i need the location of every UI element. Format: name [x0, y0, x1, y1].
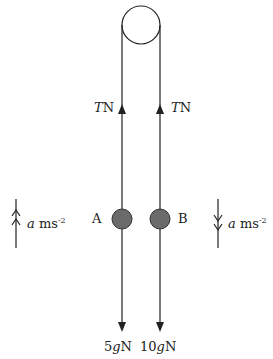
accel-unit: ms [39, 216, 58, 231]
particle-b-label: B [178, 212, 188, 225]
accel-symbol: a [27, 216, 35, 231]
pulley [122, 6, 160, 44]
tension-label-right: TN [171, 101, 191, 114]
particle-a [112, 209, 132, 229]
weight-arrow-a [118, 322, 126, 332]
tension-symbol: T [94, 100, 103, 115]
accel-exp: -2 [259, 216, 267, 225]
weight-unit: N [121, 339, 132, 354]
accel-label-right: a ms-2 [228, 217, 267, 230]
accel-exp: -2 [58, 216, 66, 225]
weight-symbol: g [112, 339, 120, 354]
tension-symbol: T [171, 100, 180, 115]
weight-arrow-b [156, 322, 164, 332]
particle-a-label: A [92, 212, 101, 225]
accel-unit: ms [240, 216, 259, 231]
weight-unit: N [165, 339, 176, 354]
accel-label-left: a ms-2 [27, 217, 66, 230]
accel-down-icon [214, 199, 222, 248]
tension-arrow-left [118, 104, 126, 114]
accel-symbol: a [228, 216, 236, 231]
accel-up-icon [12, 199, 20, 248]
weight-coef: 10 [140, 339, 157, 354]
tension-label-left: TN [94, 101, 114, 114]
particle-b [150, 209, 170, 229]
weight-symbol: g [157, 339, 165, 354]
weight-label-b: 10gN [140, 340, 176, 353]
tension-unit: N [180, 100, 191, 115]
tension-arrow-right [156, 104, 164, 114]
pulley-diagram [0, 0, 273, 359]
weight-label-a: 5gN [104, 340, 132, 353]
tension-unit: N [103, 100, 114, 115]
